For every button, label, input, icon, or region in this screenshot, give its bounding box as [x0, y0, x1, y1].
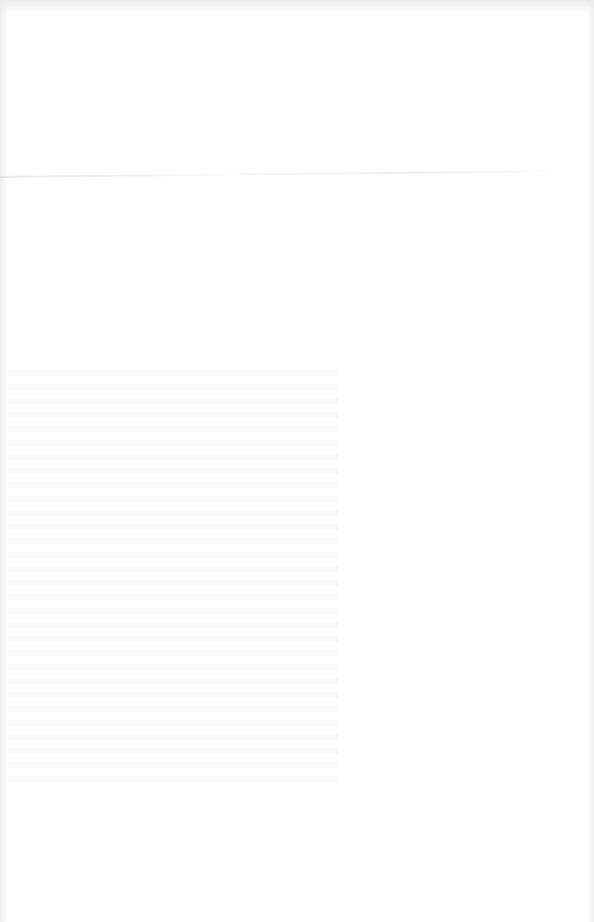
right-edge-shadow — [588, 0, 594, 922]
top-edge-shadow — [0, 0, 594, 14]
show-through-text-region — [8, 370, 338, 790]
fold-crease — [0, 170, 560, 178]
left-edge-shadow — [0, 0, 8, 922]
scanned-page — [0, 0, 594, 922]
